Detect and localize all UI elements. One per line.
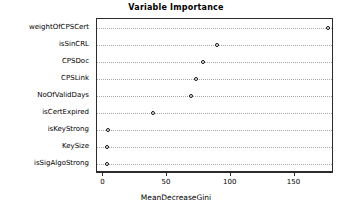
category-axis-labels: weightOfCPSCertisSinCRLCPSDocCPSLinkNoOf… [0, 18, 92, 172]
grid-row [97, 164, 332, 166]
data-point [326, 26, 330, 30]
x-tick-label: 100 [223, 178, 236, 186]
category-label: NoOfValidDays [37, 91, 89, 99]
x-tick-mark [294, 172, 295, 176]
category-label: isSigAlgoStrong [34, 159, 89, 167]
x-tick-mark [230, 172, 231, 176]
grid-row [97, 79, 332, 81]
variable-importance-chart: Variable Importance weightOfCPSCertisSin… [0, 0, 352, 213]
x-tick-label: 150 [287, 178, 300, 186]
grid-row [97, 130, 332, 132]
plot-panel [96, 18, 333, 172]
x-tick-mark [166, 172, 167, 176]
x-axis-label: MeanDecreaseGini [0, 193, 352, 202]
category-label: isSinCRL [59, 40, 89, 48]
category-label: isKeyStrong [48, 125, 89, 133]
category-label: isCertExpired [42, 108, 89, 116]
data-point [201, 60, 205, 64]
category-label: weightOfCPSCert [29, 23, 89, 31]
data-point [215, 43, 219, 47]
grid-row [97, 28, 332, 30]
x-axis-line [96, 172, 333, 173]
category-label: KeySize [62, 142, 89, 150]
grid-row [97, 62, 332, 64]
category-label: CPSLink [61, 74, 89, 82]
x-tick-mark [102, 172, 103, 176]
grid-row [97, 147, 332, 149]
x-tick-label: 0 [100, 178, 104, 186]
grid-row [97, 96, 332, 98]
grid-row [97, 113, 332, 115]
chart-title: Variable Importance [0, 2, 352, 13]
x-tick-label: 50 [162, 178, 171, 186]
category-label: CPSDoc [62, 57, 89, 65]
